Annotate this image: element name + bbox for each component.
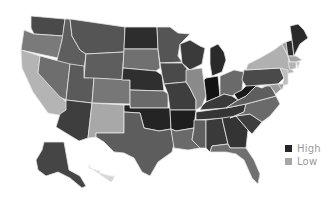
state-co bbox=[92, 78, 130, 104]
legend-item-high: High bbox=[285, 142, 321, 155]
legend-label-high: High bbox=[297, 143, 321, 154]
state-wa bbox=[31, 16, 65, 36]
map-legend: High Low bbox=[285, 142, 321, 168]
state-ma bbox=[288, 56, 302, 62]
state-nd bbox=[124, 27, 158, 49]
state-ar bbox=[170, 110, 196, 131]
state-ks bbox=[130, 90, 168, 108]
state-mi bbox=[210, 44, 226, 76]
state-sd bbox=[123, 49, 160, 71]
legend-item-low: Low bbox=[285, 155, 321, 168]
us-choropleth-map bbox=[0, 0, 336, 198]
state-hi bbox=[88, 166, 114, 182]
state-ri bbox=[296, 62, 300, 68]
state-pa bbox=[242, 68, 284, 86]
high-swatch-icon bbox=[285, 145, 292, 152]
legend-label-low: Low bbox=[297, 156, 317, 167]
state-ia bbox=[160, 63, 188, 84]
state-shapes bbox=[21, 16, 308, 188]
state-wy bbox=[84, 52, 124, 80]
state-ak bbox=[36, 142, 86, 188]
state-fl bbox=[210, 144, 260, 184]
low-swatch-icon bbox=[285, 158, 292, 165]
